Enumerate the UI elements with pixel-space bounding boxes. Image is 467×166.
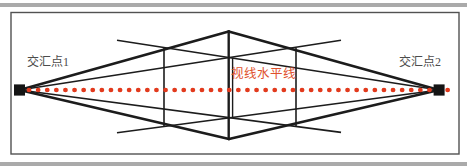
box-vertical-edges — [164, 48, 296, 127]
vanishing-point-1-label: 交汇点1 — [27, 56, 69, 69]
back-edge-bottom-right-construction — [20, 90, 342, 132]
heavy-perspective-lines — [20, 32, 440, 140]
perspective-diagram — [0, 0, 467, 166]
figure-canvas: 交汇点1 交汇点2 视线水平线 — [0, 0, 467, 166]
vanishing-point-2-marker — [434, 84, 445, 95]
back-edge-top-left-construction — [117, 40, 439, 90]
vanishing-point-1-marker — [14, 84, 25, 95]
horizon-line-label: 视线水平线 — [231, 68, 296, 82]
vanishing-point-2-label: 交汇点2 — [399, 56, 441, 69]
